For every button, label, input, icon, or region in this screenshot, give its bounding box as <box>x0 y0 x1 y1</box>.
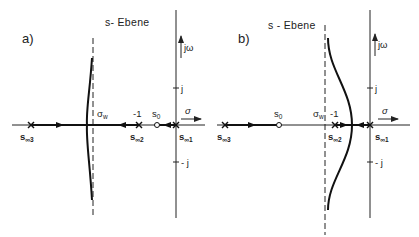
tick-j-label: j <box>180 83 183 94</box>
zero-s0 <box>155 123 160 128</box>
s-inf2-label: s∞2 <box>328 131 342 143</box>
tick-neg-j-label: - j <box>181 157 189 168</box>
s-inf1-label: s∞1 <box>179 131 193 143</box>
sigma-label: σ <box>185 105 192 116</box>
jw-label: jω <box>377 39 388 50</box>
tick-j-label: j <box>374 83 377 94</box>
root-locus-diagram: a) s- Ebene jω j - j σ σw s∞3 <box>0 0 419 237</box>
s-inf2-label: s∞2 <box>130 131 144 143</box>
s-inf3-label: s∞3 <box>217 131 231 143</box>
arrow-left-icon <box>163 122 171 128</box>
s-inf1-label: s∞1 <box>375 131 389 143</box>
s0-label: s0 <box>152 108 161 120</box>
sigma-w-label: σw <box>97 108 108 120</box>
zero-s0 <box>277 123 282 128</box>
sigma-w-label: σw <box>313 108 324 120</box>
arrow-right-icon <box>56 122 64 128</box>
arrow-right-icon <box>340 122 348 128</box>
panel-a-title: s- Ebene <box>105 16 149 28</box>
s-inf3-label: s∞3 <box>20 131 34 143</box>
panel-b-label: b) <box>238 31 250 46</box>
minus-one-label: -1 <box>133 108 141 119</box>
minus-one-label: -1 <box>330 108 338 119</box>
locus-branch-complex <box>87 58 92 200</box>
panel-a: a) s- Ebene jω j - j σ σw s∞3 <box>12 10 205 218</box>
sigma-label: σ <box>382 105 389 116</box>
panel-a-label: a) <box>22 31 34 46</box>
arrow-right-icon <box>248 122 256 128</box>
panel-b-title: s - Ebene <box>268 19 316 31</box>
panel-b: b) s - Ebene jω j - j σ σw s∞3 s0 <box>217 10 410 235</box>
arrow-left-icon <box>356 122 364 128</box>
tick-neg-j-label: - j <box>375 157 383 168</box>
jw-label: jω <box>183 42 194 53</box>
s0-label: s0 <box>274 108 283 120</box>
arrow-left-icon <box>118 122 126 128</box>
